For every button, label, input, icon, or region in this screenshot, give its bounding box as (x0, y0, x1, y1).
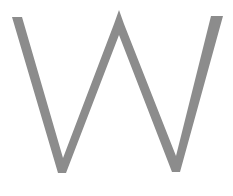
w-stroke (12, 10, 223, 173)
w-glyph-icon (0, 0, 233, 196)
letter-w-graphic: W (0, 0, 233, 196)
